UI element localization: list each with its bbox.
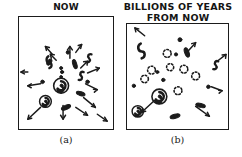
panel-b-title-line2: FROM NOW: [122, 13, 234, 23]
panel-b-title: BILLIONS OF YEARS FROM NOW: [122, 2, 234, 22]
panel-b-canvas: [127, 24, 228, 129]
panel-b: [126, 23, 229, 130]
galaxy-group-a: [40, 54, 92, 111]
panel-a: [18, 16, 114, 130]
panel-a-title: NOW: [18, 3, 114, 12]
panel-a-canvas: [19, 17, 113, 129]
expansion-figure: NOW: [0, 0, 242, 157]
panel-b-sub-label: (b): [126, 134, 229, 145]
faded-galaxy-group-b: [141, 50, 200, 95]
panel-a-sub-label: (a): [18, 134, 114, 145]
dot-group-b: [132, 38, 210, 89]
panel-b-title-line1: BILLIONS OF YEARS: [124, 1, 233, 12]
